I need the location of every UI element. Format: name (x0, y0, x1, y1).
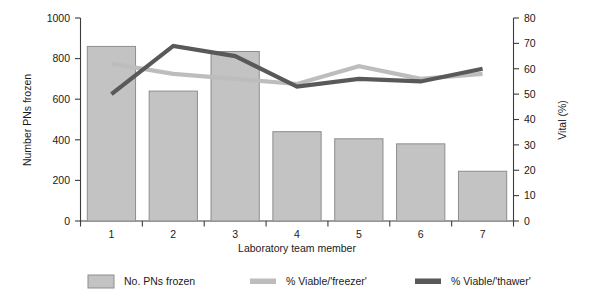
right-tick-label: 20 (524, 164, 536, 176)
right-tick-label: 10 (524, 189, 536, 201)
chart-figure: 02004006008001000 Number PNs frozen 0102… (0, 0, 592, 306)
bar (149, 91, 197, 221)
right-tick-label: 30 (524, 139, 536, 151)
right-axis: 01020304050607080 Vital (%) (514, 12, 569, 227)
category-tick-label: 6 (418, 228, 424, 240)
legend-swatch-line (250, 279, 276, 285)
right-tick-label: 40 (524, 113, 536, 125)
right-tick-label: 0 (524, 215, 530, 227)
right-tick-label: 70 (524, 37, 536, 49)
legend-label: % Viable/'thawer' (451, 275, 531, 287)
right-tick-group: 01020304050607080 (514, 12, 536, 227)
bottom-axis: 1234567 Laboratory team member (81, 221, 514, 254)
category-tick-label: 5 (356, 228, 362, 240)
right-tick-label: 80 (524, 12, 536, 24)
chart-legend: No. PNs frozen% Viable/'freezer'% Viable… (88, 275, 531, 288)
category-tick-label: 2 (170, 228, 176, 240)
right-axis-title: Vital (%) (556, 100, 568, 139)
left-tick-label: 200 (52, 174, 70, 186)
legend-swatch-line (415, 279, 441, 285)
line-series-group (111, 46, 482, 94)
left-tick-label: 400 (52, 134, 70, 146)
category-tick-label: 1 (109, 228, 115, 240)
right-tick-label: 60 (524, 63, 536, 75)
bar (273, 132, 321, 221)
left-axis: 02004006008001000 Number PNs frozen (21, 12, 81, 227)
left-tick-label: 800 (52, 52, 70, 64)
category-tick-label: 3 (232, 228, 238, 240)
left-tick-label: 1000 (47, 12, 71, 24)
bar (335, 139, 383, 221)
left-axis-title: Number PNs frozen (21, 74, 33, 166)
bar (87, 46, 135, 221)
right-tick-label: 50 (524, 88, 536, 100)
left-tick-label: 0 (64, 215, 70, 227)
bar (458, 171, 506, 221)
category-tick-label: 4 (294, 228, 300, 240)
left-tick-group: 02004006008001000 (47, 12, 81, 227)
legend-label: % Viable/'freezer' (286, 275, 367, 287)
category-tick-label: 7 (480, 228, 486, 240)
bar-series-no-pns-frozen (87, 46, 506, 221)
left-tick-label: 600 (52, 93, 70, 105)
legend-swatch-bar (88, 275, 114, 288)
bottom-tick-group: 1234567 (81, 221, 514, 240)
line-series (111, 46, 482, 94)
chart-svg: 02004006008001000 Number PNs frozen 0102… (0, 0, 592, 306)
legend-label: No. PNs frozen (124, 275, 195, 287)
bar (397, 144, 445, 221)
bottom-axis-title: Laboratory team member (238, 242, 356, 254)
